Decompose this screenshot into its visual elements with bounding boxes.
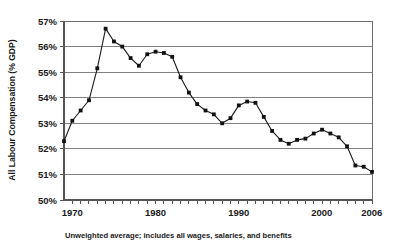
y-tick-label-51: 51% (38, 169, 58, 180)
data-point-1985 (195, 102, 199, 106)
data-point-2000 (320, 128, 324, 132)
x-tick-label-1970: 1970 (62, 207, 83, 218)
y-tick-label-56: 56% (38, 41, 58, 52)
data-point-1991 (245, 100, 249, 104)
data-point-2003 (345, 144, 349, 148)
y-tick-label-50: 50% (38, 195, 58, 206)
data-point-1982 (170, 55, 174, 59)
y-tick-label-52: 52% (38, 143, 58, 154)
chart-background (0, 0, 398, 251)
data-point-1994 (270, 129, 274, 133)
data-point-1990 (237, 103, 241, 107)
data-point-1989 (229, 116, 233, 120)
y-tick-label-57: 57% (38, 16, 58, 27)
data-point-1998 (304, 137, 308, 141)
data-point-1995 (279, 138, 283, 142)
chart-figure: 57% 56% 55% 54% 53% 52% 51% 50% 1970 198… (0, 0, 398, 251)
data-point-1973 (95, 66, 99, 70)
data-point-2002 (337, 135, 341, 139)
data-point-1976 (120, 45, 124, 49)
data-point-1970 (70, 119, 74, 123)
data-point-1974 (104, 27, 108, 31)
y-tick-label-55: 55% (38, 67, 58, 78)
data-point-1986 (204, 109, 208, 113)
data-point-1981 (162, 51, 166, 55)
data-point-2001 (328, 132, 332, 136)
data-point-1983 (179, 75, 183, 79)
data-point-2005 (362, 165, 366, 169)
x-tick-label-1980: 1980 (145, 207, 166, 218)
data-point-1975 (112, 40, 116, 44)
data-point-1978 (137, 64, 141, 68)
data-point-1999 (312, 132, 316, 136)
x-tick-label-2006: 2006 (361, 207, 382, 218)
chart-caption: Unweighted average; includes all wages, … (65, 231, 292, 240)
data-point-1971 (79, 109, 83, 113)
line-chart-svg: 57% 56% 55% 54% 53% 52% 51% 50% 1970 198… (0, 0, 398, 251)
data-point-2006 (370, 170, 374, 174)
data-point-1987 (212, 112, 216, 116)
data-point-1993 (262, 115, 266, 119)
data-point-1972 (87, 98, 91, 102)
x-tick-label-2000: 2000 (311, 207, 332, 218)
x-tick-label-1990: 1990 (228, 207, 249, 218)
data-point-1969 (62, 139, 66, 143)
data-point-1979 (145, 52, 149, 56)
data-point-1988 (220, 121, 224, 125)
y-axis-title: All Labour Compensation (% GDP) (7, 39, 17, 180)
data-point-1992 (254, 101, 258, 105)
y-tick-label-53: 53% (38, 118, 58, 129)
data-point-1977 (129, 56, 133, 60)
data-point-2004 (353, 164, 357, 168)
data-point-1984 (187, 91, 191, 95)
data-point-1997 (295, 138, 299, 142)
data-point-1996 (287, 142, 291, 146)
data-point-1980 (154, 50, 158, 54)
y-tick-label-54: 54% (38, 92, 58, 103)
